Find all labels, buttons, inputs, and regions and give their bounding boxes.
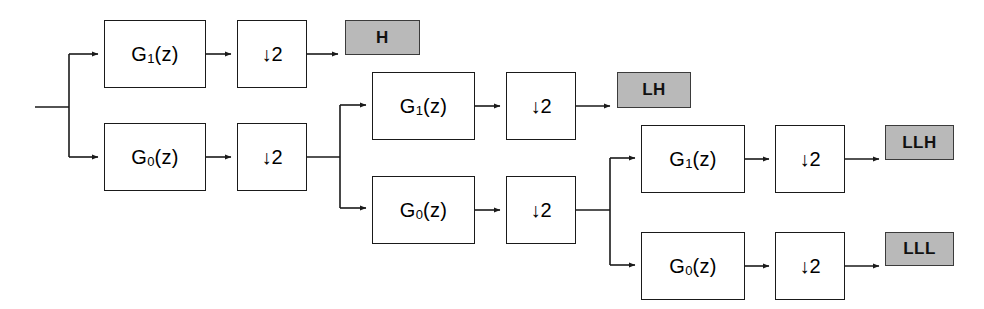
output-label-out-llh: LLH [885, 125, 954, 160]
downsample-arrow-icon: ↓2 [530, 199, 551, 222]
block-g0-stage3: G0(z) [641, 232, 745, 300]
output-label-text: LLH [902, 133, 937, 153]
block-down-stage2-lo: ↓2 [506, 176, 576, 244]
output-label-out-lll: LLL [885, 232, 954, 266]
downsample-arrow-icon: ↓2 [261, 43, 282, 66]
block-down-stage1-lo: ↓2 [237, 123, 307, 191]
block-label-main: G [131, 146, 147, 169]
output-label-out-h: H [345, 20, 420, 55]
filter-bank-diagram: G1(z)↓2G0(z)↓2G1(z)↓2G0(z)↓2G1(z)↓2G0(z)… [0, 0, 984, 309]
downsample-arrow-icon: ↓2 [530, 95, 551, 118]
block-label-subscript: 1 [685, 156, 692, 171]
block-down-stage3-lo: ↓2 [775, 232, 845, 300]
downsample-arrow-icon: ↓2 [261, 146, 282, 169]
output-label-text: H [376, 28, 389, 48]
block-g1-stage3: G1(z) [641, 125, 745, 193]
downsample-arrow-icon: ↓2 [799, 148, 820, 171]
block-label-subscript: 0 [147, 154, 154, 169]
block-label-main: G [400, 199, 416, 222]
block-label-argument: (z) [423, 95, 447, 118]
block-label-main: G [669, 255, 685, 278]
block-label-subscript: 0 [416, 207, 423, 222]
block-down-stage2-hi: ↓2 [506, 72, 576, 140]
block-label-argument: (z) [154, 146, 178, 169]
block-label-argument: (z) [692, 255, 716, 278]
output-label-text: LLL [903, 239, 936, 259]
block-label-main: G [131, 43, 147, 66]
block-label-argument: (z) [692, 148, 716, 171]
block-down-stage1-hi: ↓2 [237, 20, 307, 88]
downsample-arrow-icon: ↓2 [799, 255, 820, 278]
block-label-subscript: 0 [685, 263, 692, 278]
block-label-subscript: 1 [416, 103, 423, 118]
block-label-main: G [669, 148, 685, 171]
block-g0-stage1: G0(z) [104, 123, 206, 191]
output-label-out-lh: LH [617, 72, 691, 108]
output-label-text: LH [642, 80, 666, 100]
block-label-main: G [400, 95, 416, 118]
block-label-argument: (z) [423, 199, 447, 222]
block-g0-stage2: G0(z) [372, 176, 475, 244]
block-g1-stage1: G1(z) [104, 20, 206, 88]
block-g1-stage2: G1(z) [372, 72, 475, 140]
block-down-stage3-hi: ↓2 [775, 125, 845, 193]
block-label-argument: (z) [154, 43, 178, 66]
block-label-subscript: 1 [147, 51, 154, 66]
